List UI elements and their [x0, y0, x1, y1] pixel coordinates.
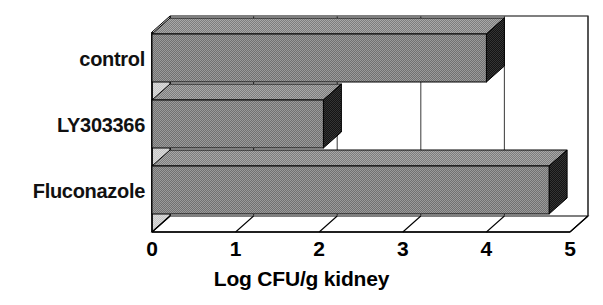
category-label-fluconazole: Fluconazole: [4, 181, 145, 201]
x-axis-title: Log CFU/g kidney: [0, 268, 603, 289]
bar-fluconazole[interactable]: [152, 150, 567, 214]
category-label-ly303366: LY303366: [10, 115, 145, 135]
x-tick-label-5: 5: [550, 238, 590, 259]
x-tick-label-4: 4: [466, 238, 506, 259]
category-label-control: control: [10, 49, 145, 69]
bar-control[interactable]: [152, 18, 504, 82]
floor-plane: [152, 216, 588, 232]
x-tick-label-3: 3: [383, 238, 423, 259]
x-tick-label-0: 0: [132, 238, 172, 259]
chart-canvas: [0, 0, 603, 305]
bar-ly303366[interactable]: [152, 84, 341, 148]
bar-chart: control LY303366 Fluconazole 0 1 2 3 4 5…: [0, 0, 603, 305]
x-tick-label-2: 2: [299, 238, 339, 259]
x-tick-label-1: 1: [216, 238, 256, 259]
plot-area: control LY303366 Fluconazole 0 1 2 3 4 5…: [0, 0, 603, 305]
